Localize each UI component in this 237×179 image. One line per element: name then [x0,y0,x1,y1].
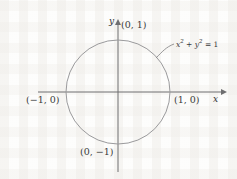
equation-leader-line [156,44,174,58]
x-axis-label: x [213,95,218,104]
equation-equals: = 1 [203,40,219,49]
point-label-left: (−1, 0) [26,95,60,105]
circle-equation-label: x2 + y2 = 1 [176,39,218,48]
equation-operator: + [184,40,195,49]
plot-canvas [0,0,237,179]
point-label-right: (1, 0) [174,95,200,105]
point-label-bottom: (0, −1) [80,147,114,157]
point-label-top: (0, 1) [121,20,147,30]
x-axis-arrow-icon [221,89,227,95]
unit-circle-figure: (0, 1) (1, 0) (−1, 0) (0, −1) y x x2 + y… [0,0,237,179]
y-axis-label: y [109,17,114,26]
